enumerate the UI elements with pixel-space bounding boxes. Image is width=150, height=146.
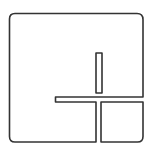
- corner-square: [101, 102, 143, 142]
- icon-canvas: [0, 0, 150, 146]
- layout-split-icon: [0, 0, 150, 146]
- main-region-outline: [10, 14, 144, 143]
- vertical-slot: [96, 53, 102, 93]
